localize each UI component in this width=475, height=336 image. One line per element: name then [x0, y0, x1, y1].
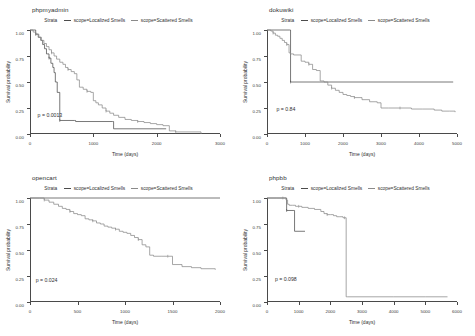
x-tick [220, 134, 221, 137]
legend-key-icon [368, 20, 375, 21]
x-tick-label: 2000 [152, 141, 162, 146]
legend-label: scope=Scattered Smells [141, 18, 193, 23]
y-tick-label: 0.75 [252, 56, 261, 61]
legend-entry-0[interactable]: scope=Localized Smells [64, 18, 125, 23]
x-tick [457, 302, 458, 305]
x-tick-label: 1000 [300, 141, 310, 146]
legend-key-icon [301, 188, 308, 189]
y-tick-label: 0.00 [252, 302, 261, 307]
panel-title: phpmyadmin [32, 6, 68, 13]
x-tick-label: 1000 [294, 309, 304, 314]
x-tick [78, 302, 79, 305]
curves-layer [267, 198, 457, 302]
legend-entry-0[interactable]: scope=Localized Smells [301, 18, 362, 23]
legend-title: Strata [44, 186, 57, 191]
legend-key-icon [64, 188, 71, 189]
legend-label: scope=Scattered Smells [378, 186, 430, 191]
x-tick [157, 134, 158, 137]
y-axis-title: Survival probability [242, 229, 248, 271]
x-tick [125, 302, 126, 305]
y-tick-label: 1.00 [252, 198, 261, 203]
y-tick-label: 0.50 [15, 82, 24, 87]
x-tick-label: 2000 [338, 141, 348, 146]
x-tick [267, 134, 268, 137]
y-tick-label: 0.25 [15, 108, 24, 113]
panel-title: opencart [32, 174, 57, 181]
legend-entry-0[interactable]: scope=Localized Smells [64, 186, 125, 191]
y-axis-title: Survival probability [242, 61, 248, 103]
legend-label: scope=Scattered Smells [141, 186, 193, 191]
y-tick-label: 0.25 [15, 276, 24, 281]
plot-area: 01000200030004000500060000.000.250.500.7… [267, 198, 457, 302]
survival-curve-0 [267, 198, 305, 231]
x-tick [457, 134, 458, 137]
legend-entry-1[interactable]: scope=Scattered Smells [131, 18, 192, 23]
y-tick-label: 1.00 [15, 198, 24, 203]
y-tick-label: 0.00 [15, 302, 24, 307]
p-value-annotation: p = 0.84 [277, 106, 296, 112]
x-tick-label: 1000 [120, 309, 130, 314]
x-tick-label: 2000 [325, 309, 335, 314]
legend: Stratascope=Localized Smellsscope=Scatte… [0, 18, 237, 23]
y-tick-label: 1.00 [15, 30, 24, 35]
x-tick [343, 134, 344, 137]
x-tick-label: 5000 [420, 309, 430, 314]
legend-key-icon [368, 188, 375, 189]
legend-title: Strata [281, 186, 294, 191]
y-tick-label: 0.00 [252, 134, 261, 139]
survival-curve-1 [267, 30, 455, 112]
legend-label: scope=Localized Smells [74, 186, 126, 191]
x-tick [305, 134, 306, 137]
y-tick [27, 302, 30, 303]
legend-entry-1[interactable]: scope=Scattered Smells [368, 18, 429, 23]
x-tick-label: 1000 [88, 141, 98, 146]
x-axis-title: Time (days) [267, 319, 457, 325]
curves-layer [30, 198, 220, 302]
survival-curves-figure: phpmyadminStratascope=Localized Smellssc… [0, 0, 475, 336]
legend-label: scope=Localized Smells [311, 186, 363, 191]
x-tick-label: 3000 [215, 141, 225, 146]
y-tick [27, 134, 30, 135]
y-tick [264, 134, 267, 135]
legend-key-icon [64, 20, 71, 21]
panel-phpbb: phpbbStratascope=Localized Smellsscope=S… [237, 168, 474, 336]
x-tick-label: 0 [29, 309, 31, 314]
x-tick-label: 1500 [168, 309, 178, 314]
y-tick-label: 0.75 [252, 224, 261, 229]
x-tick [381, 134, 382, 137]
y-tick-label: 0.50 [15, 250, 24, 255]
x-tick-label: 2000 [215, 309, 225, 314]
legend-entry-1[interactable]: scope=Scattered Smells [368, 186, 429, 191]
panel-title: dokuwiki [269, 6, 294, 13]
x-tick [267, 302, 268, 305]
legend-title: Strata [281, 18, 294, 23]
y-tick-label: 0.50 [252, 250, 261, 255]
legend-entry-0[interactable]: scope=Localized Smells [301, 186, 362, 191]
x-tick [362, 302, 363, 305]
x-tick-label: 3000 [357, 309, 367, 314]
y-tick-label: 0.75 [15, 224, 24, 229]
x-tick [30, 302, 31, 305]
p-value-annotation: p = 0.098 [275, 276, 297, 282]
x-axis-title: Time (days) [30, 319, 220, 325]
x-tick [220, 302, 221, 305]
legend-entry-1[interactable]: scope=Scattered Smells [131, 186, 192, 191]
curves-layer [30, 30, 220, 134]
plot-area: 01000200030000.000.250.500.751.00Time (d… [30, 30, 220, 134]
legend-key-icon [301, 20, 308, 21]
x-axis-title: Time (days) [30, 151, 220, 157]
survival-curve-0 [267, 30, 453, 82]
x-tick [93, 134, 94, 137]
legend-title: Strata [44, 18, 57, 23]
legend-label: scope=Localized Smells [311, 18, 363, 23]
x-tick-label: 0 [266, 309, 268, 314]
y-tick-label: 0.25 [252, 108, 261, 113]
legend: Stratascope=Localized Smellsscope=Scatte… [237, 186, 474, 191]
x-tick-label: 0 [29, 141, 31, 146]
y-axis-title: Survival probability [5, 61, 11, 103]
legend-label: scope=Scattered Smells [378, 18, 430, 23]
x-tick [30, 134, 31, 137]
y-tick-label: 0.75 [15, 56, 24, 61]
y-tick-label: 1.00 [252, 30, 261, 35]
x-tick-label: 4000 [414, 141, 424, 146]
